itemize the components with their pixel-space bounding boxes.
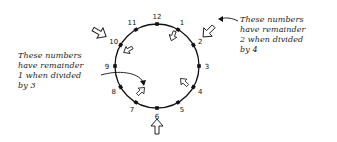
clock-circle — [115, 24, 199, 108]
annotation-remainder-1-mod-3: These numbers have remainder 1 when divi… — [18, 51, 98, 91]
inner-arrow-10 — [122, 44, 135, 56]
annotation-remainder-2-mod-4: These numbers have remainder 2 when divi… — [240, 15, 320, 55]
clock-number-9: 9 — [105, 63, 109, 71]
clock-number-3: 3 — [205, 63, 209, 71]
clock-number-10: 10 — [109, 38, 118, 46]
left-pointer-arrowhead — [140, 80, 146, 86]
clock-number-labels: 121234567891011 — [105, 13, 209, 121]
clock-number-4: 4 — [198, 88, 203, 96]
tick-6 — [155, 106, 159, 110]
inner-arrow-4 — [178, 76, 191, 89]
outer-arrow-6 — [151, 119, 163, 134]
inner-arrow-7 — [135, 85, 148, 98]
clock-ticks — [113, 22, 201, 110]
tick-9 — [113, 64, 117, 68]
clock-number-1: 1 — [180, 19, 184, 27]
clock-number-5: 5 — [180, 106, 184, 114]
right-pointer-arrowhead — [218, 16, 223, 22]
tick-12 — [155, 22, 159, 26]
left-pointer-arrow — [101, 72, 143, 82]
inner-arrow-1 — [168, 30, 179, 42]
clock-number-11: 11 — [128, 19, 137, 27]
clock-number-8: 8 — [111, 88, 115, 96]
outer-arrow-10 — [90, 24, 109, 42]
clock-number-7: 7 — [130, 106, 134, 114]
clock-number-2: 2 — [198, 38, 202, 46]
tick-3 — [197, 64, 201, 68]
clock-number-12: 12 — [153, 13, 162, 21]
